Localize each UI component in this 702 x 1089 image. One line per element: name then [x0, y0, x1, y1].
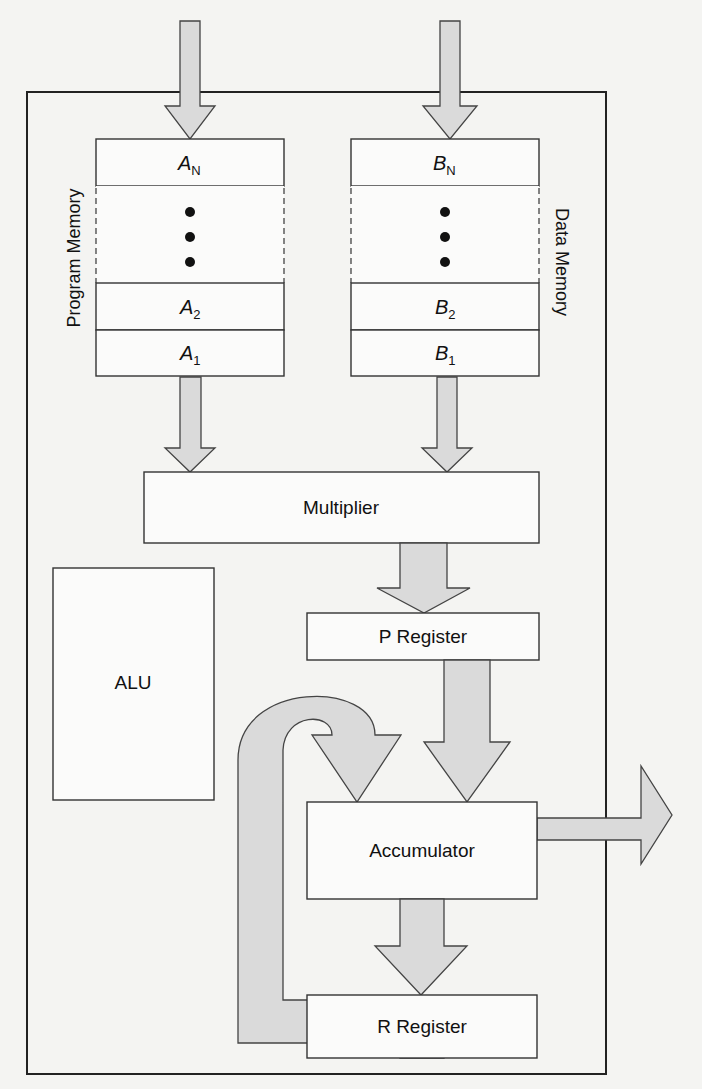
r-register-label: R Register — [377, 1016, 467, 1037]
accumulator-label: Accumulator — [369, 840, 475, 861]
input-arrow-program — [165, 21, 215, 139]
ellipsis-dot — [440, 232, 450, 242]
alu-label: ALU — [115, 672, 152, 693]
output-arrow — [537, 766, 672, 864]
input-arrow-data — [423, 21, 477, 139]
data-memory: BN B2 B1 Data Memory — [351, 139, 572, 376]
program-memory-label: Program Memory — [64, 188, 84, 327]
p-register-label: P Register — [379, 626, 468, 647]
ellipsis-dot — [185, 207, 195, 217]
arrow-accumulator-to-r-register — [375, 899, 467, 995]
arrow-data-to-multiplier — [422, 377, 472, 472]
program-memory: AN A2 A1 Program Memory — [64, 139, 284, 376]
ellipsis-dot — [440, 207, 450, 217]
ellipsis-dot — [440, 257, 450, 267]
arrow-p-register-to-accumulator — [424, 660, 510, 802]
ellipsis-dot — [185, 232, 195, 242]
ellipsis-dot — [185, 257, 195, 267]
dsp-block-diagram: AN A2 A1 Program Memory BN B2 B1 Data Me… — [0, 0, 702, 1089]
multiplier-label: Multiplier — [303, 497, 380, 518]
arrow-program-to-multiplier — [165, 377, 215, 472]
arrow-multiplier-to-p-register — [377, 543, 470, 613]
data-memory-label: Data Memory — [552, 208, 572, 316]
